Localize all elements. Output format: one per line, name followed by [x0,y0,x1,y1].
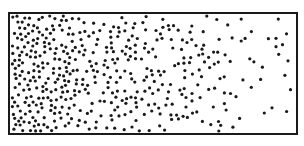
particle-dot [40,102,43,105]
particle-dot [26,41,29,44]
particle-dot [241,78,244,81]
particle-dot [38,30,41,33]
particle-dot [116,57,119,60]
particle-dot [11,62,14,65]
particle-dot [120,16,123,19]
particle-dot [129,110,132,113]
particle-dot [58,111,61,114]
particle-dot [178,89,181,92]
particle-dot [129,96,132,99]
particle-dot [231,126,234,129]
particle-dot [183,69,186,72]
particle-dot [169,83,172,86]
particle-dot [37,65,40,68]
particle-dot [270,106,273,109]
particle-dot [35,103,38,106]
particle-dot [116,35,119,38]
particle-dot [213,87,216,90]
particle-dot [78,90,81,93]
particle-dot [14,123,17,126]
particle-dot [259,78,262,81]
particle-dot [144,28,147,31]
particle-dot [29,55,32,58]
particle-dot [177,29,180,32]
particle-dot [18,26,21,29]
particle-dot [147,51,150,54]
particle-dot [91,102,94,105]
particle-dot [112,50,115,53]
particle-dot [134,51,137,54]
particle-dot [21,129,24,132]
particle-dot [13,59,16,62]
particle-dot [84,121,87,124]
particle-dot [34,119,37,122]
particle-dot [169,113,172,116]
particle-dot [29,129,32,132]
particle-dot [11,44,14,47]
particle-dot [16,104,19,107]
particle-dot [172,24,175,27]
particle-dot [281,43,284,46]
particle-dot [61,106,64,109]
particle-dot [177,117,180,120]
particle-dot [123,113,126,116]
particle-dot [55,126,58,129]
particle-dot [200,48,203,51]
particle-dot [18,74,21,77]
particle-dot [136,37,139,40]
particle-dot [130,125,133,128]
particle-dot [83,30,86,33]
particle-dot [147,103,150,106]
particle-dot [38,54,41,57]
particle-dot [86,84,89,87]
particle-dot [226,23,229,26]
particle-dot [64,98,67,101]
particle-dot [145,67,148,70]
particle-dot [213,63,216,66]
particle-dot [75,82,78,85]
particle-dot [82,53,85,56]
particle-dot [28,104,31,107]
particle-dot [198,68,201,71]
particle-dot [46,126,49,129]
particle-dot [94,81,97,84]
particle-dot [15,77,18,80]
particle-dot [195,110,198,113]
particle-dot [81,78,84,81]
particle-dot [133,81,136,84]
particle-dot [248,57,251,60]
particle-dot [18,82,21,85]
particle-dot [163,70,166,73]
particle-dot [78,119,81,122]
particle-dot [54,52,57,55]
particle-dot [185,41,188,44]
particle-dot [250,86,253,89]
particle-dot [164,104,167,107]
particle-dot [181,38,184,41]
particle-dot [182,56,185,59]
particle-dot [54,106,57,109]
particle-dot [127,58,130,61]
particle-dot [62,50,65,53]
particle-dot [144,42,147,45]
particle-dot [121,50,124,53]
particle-dot [65,19,68,22]
particle-dot [208,66,211,69]
particle-dot [43,51,46,54]
particle-dot [76,69,79,72]
particle-dot [194,44,197,47]
particle-dot [74,58,77,61]
particle-dot [113,61,116,64]
particle-dot [43,45,46,48]
particle-dot [84,88,87,91]
particle-dot [203,60,206,63]
particle-dot [129,55,132,58]
particle-dot [223,91,226,94]
particle-dot [184,105,187,108]
particle-dot [111,91,114,94]
particle-dot [21,70,24,73]
particle-dot [73,89,76,92]
particle-dot [99,114,102,117]
particle-dot [23,27,26,30]
particle-dot [286,59,289,62]
